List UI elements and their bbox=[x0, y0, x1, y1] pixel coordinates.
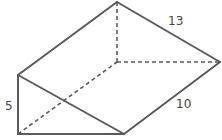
prism-diagram bbox=[0, 0, 222, 140]
edge-front-top-to-apex bbox=[18, 2, 117, 75]
edge-right-to-front-bottom-right bbox=[124, 62, 220, 134]
edge-front-hypotenuse bbox=[18, 75, 124, 134]
label-right-edge: 10 bbox=[176, 98, 191, 110]
label-top-edge: 13 bbox=[168, 15, 183, 27]
label-left-edge: 5 bbox=[5, 100, 13, 112]
hidden-edge-diagonal bbox=[18, 62, 117, 134]
edge-apex-to-right bbox=[117, 2, 220, 62]
